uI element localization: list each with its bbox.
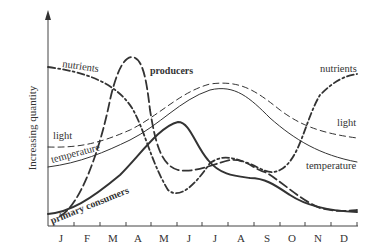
tick-label-jun: J — [187, 232, 192, 244]
y-axis-arrow-icon — [45, 10, 51, 20]
x-axis-ticks — [74, 222, 357, 226]
y-axis-label: Increasing quantity — [26, 85, 38, 170]
tick-label-apr: A — [134, 232, 142, 244]
tick-label-feb: F — [84, 232, 90, 244]
series-nutrients — [48, 67, 357, 193]
label-nutrients-right: nutrients — [320, 63, 357, 74]
tick-label-jul: J — [213, 232, 218, 244]
tick-label-mar: M — [108, 232, 118, 244]
label-light-right: light — [337, 117, 356, 128]
label-light-left: light — [53, 130, 72, 141]
axes — [45, 10, 358, 226]
tick-label-nov: N — [314, 232, 322, 244]
tick-label-oct: O — [288, 232, 296, 244]
label-nutrients-left: nutrients — [62, 58, 100, 74]
label-producers: producers — [150, 65, 193, 76]
tick-label-aug: A — [237, 232, 245, 244]
label-temperature-right: temperature — [306, 160, 356, 171]
tick-label-dec: D — [340, 232, 348, 244]
inline-labels: nutrients producers nutrients light ligh… — [49, 58, 357, 226]
seasonal-cycle-chart: Increasing quantity J F M A M J J A S O … — [0, 0, 379, 252]
x-axis-tick-labels: J F M A M J J A S O N D — [59, 232, 348, 244]
tick-label-jan: J — [59, 232, 64, 244]
tick-label-sep: S — [264, 232, 270, 244]
label-primary-consumers: primary consumers — [49, 184, 131, 226]
tick-label-may: M — [159, 232, 169, 244]
series-temperature — [48, 89, 357, 167]
